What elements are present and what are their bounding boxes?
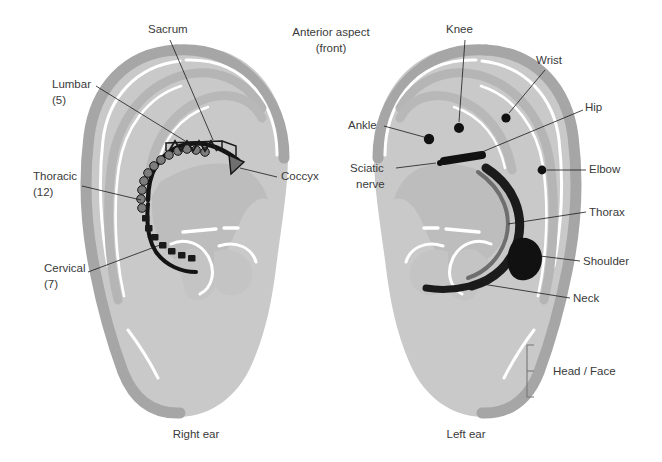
label-cervical-count: (7) (44, 278, 58, 290)
ear-acupuncture-diagram: Sacrum Lumbar (5) Thoracic (12) Cervical… (0, 0, 662, 462)
label-elbow: Elbow (589, 163, 621, 175)
label-lumbar: Lumbar (52, 78, 91, 90)
label-thoracic: Thoracic (33, 170, 77, 182)
marker-sciatic-dot (437, 160, 443, 166)
label-wrist: Wrist (536, 54, 563, 66)
marker-neck (426, 286, 470, 289)
label-ankle: Ankle (348, 119, 377, 131)
right-ear-illustration: Sacrum Lumbar (5) Thoracic (12) Cervical… (33, 23, 319, 417)
label-thoracic-count: (12) (33, 186, 54, 198)
caption-right-ear: Right ear (173, 428, 220, 440)
label-thorax: Thorax (589, 206, 625, 218)
header-front: (front) (316, 42, 347, 54)
marker-knee-dot (454, 123, 464, 133)
label-neck: Neck (573, 292, 599, 304)
label-lumbar-count: (5) (52, 94, 66, 106)
marker-ankle-dot (424, 134, 434, 144)
label-cervical: Cervical (44, 262, 86, 274)
header-anterior-aspect: Anterior aspect (292, 26, 370, 38)
label-sciatic: Sciatic (350, 162, 384, 174)
label-head-face: Head / Face (553, 365, 616, 377)
label-shoulder: Shoulder (583, 255, 629, 267)
label-sciatic-line2: nerve (356, 178, 385, 190)
marker-wrist-dot (501, 113, 510, 122)
label-sacrum: Sacrum (148, 23, 188, 35)
diagram-canvas: Sacrum Lumbar (5) Thoracic (12) Cervical… (0, 0, 662, 462)
label-hip: Hip (585, 101, 602, 113)
label-knee: Knee (446, 23, 473, 35)
label-coccyx: Coccyx (281, 170, 319, 182)
caption-left-ear: Left ear (447, 428, 486, 440)
marker-elbow-dot (538, 166, 547, 175)
left-ear-illustration: Knee Wrist Hip Ankle Sciatic nerve Elbow… (348, 23, 629, 417)
